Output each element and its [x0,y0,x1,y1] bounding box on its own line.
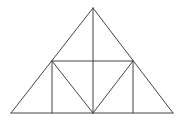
left-inner-diagonal [52,61,93,113]
triangle-diagram [0,0,179,127]
right-inner-diagonal [93,61,133,113]
